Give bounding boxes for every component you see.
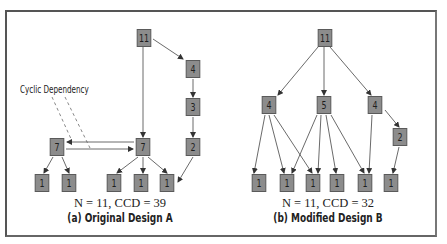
edge-b-4r-leaf5 xyxy=(369,115,372,173)
panel-b-caption: (b) Modified Design B xyxy=(266,211,391,225)
node-b-leaf6: 1 xyxy=(384,174,398,192)
edge-a-7r-leaf3 xyxy=(117,157,138,173)
node-a-4: 4 xyxy=(186,60,200,78)
node-a-7-left: 7 xyxy=(50,138,64,156)
edge-b-4r-2 xyxy=(385,110,399,127)
edge-b-4-leaf3 xyxy=(274,115,312,173)
edge-b-11-4r xyxy=(330,47,371,95)
node-b-4-left: 4 xyxy=(262,96,276,114)
edge-b-5-leaf3 xyxy=(318,115,321,173)
node-a-leaf4: 1 xyxy=(134,174,148,192)
cyclic-dependency-label: Cyclic Dependency xyxy=(20,84,89,95)
node-b-4-right: 4 xyxy=(368,96,382,114)
edge-b-2-leaf6 xyxy=(393,147,399,173)
node-b-leaf2: 1 xyxy=(280,174,294,192)
node-a-3: 3 xyxy=(186,98,200,116)
panel-a-metric: N = 11, CCD = 39 xyxy=(60,196,180,211)
node-a-leaf3: 1 xyxy=(107,174,121,192)
node-a-leaf5: 1 xyxy=(160,174,174,192)
node-b-leaf3: 1 xyxy=(306,174,320,192)
edge-a-7-leaf2 xyxy=(62,157,69,173)
node-a-root: 11 xyxy=(137,29,151,47)
edge-b-5-leaf4 xyxy=(326,115,336,173)
dashed-pointer-2 xyxy=(65,97,90,148)
node-b-root: 11 xyxy=(318,29,332,47)
node-b-2: 2 xyxy=(393,128,407,146)
edge-a-7-leaf1 xyxy=(44,157,53,173)
panel-b-metric: N = 11, CCD = 32 xyxy=(268,196,388,211)
edge-b-4-leaf1 xyxy=(254,115,265,173)
node-b-leaf4: 1 xyxy=(330,174,344,192)
edge-b-5-leaf5 xyxy=(331,115,364,173)
node-b-leaf1: 1 xyxy=(252,174,266,192)
node-b-leaf5: 1 xyxy=(358,174,372,192)
edge-b-5-leaf2 xyxy=(292,115,317,173)
edge-a-11-4 xyxy=(153,39,183,59)
edge-b-11-4 xyxy=(278,47,318,95)
dashed-pointer-1 xyxy=(52,97,72,141)
node-a-7-right: 7 xyxy=(136,138,150,156)
node-a-leaf2: 1 xyxy=(62,174,76,192)
node-b-5: 5 xyxy=(317,96,331,114)
edge-a-7r-leaf5 xyxy=(148,157,167,173)
edge-a-2-leaf5 xyxy=(178,157,193,182)
node-a-leaf1: 1 xyxy=(35,174,49,192)
edge-b-4-leaf2 xyxy=(269,115,284,173)
node-a-2: 2 xyxy=(186,138,200,156)
panel-a-caption: (a) Original Design A xyxy=(58,211,183,225)
